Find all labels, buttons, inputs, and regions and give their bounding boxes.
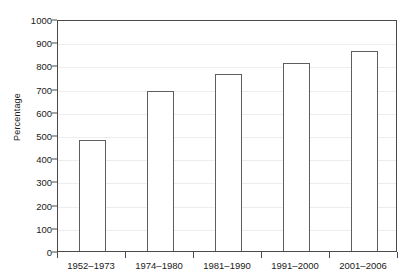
gridline (58, 44, 396, 45)
x-tick-mark (261, 252, 262, 258)
bar (283, 63, 310, 251)
bar (215, 74, 242, 251)
bar (79, 140, 106, 251)
y-tick-label: 1000 (8, 15, 52, 26)
x-tick-mark (329, 252, 330, 258)
x-tick-mark (125, 252, 126, 258)
y-tick-label: 600 (8, 107, 52, 118)
y-tick-label: 300 (8, 177, 52, 188)
y-tick-label: 200 (8, 200, 52, 211)
y-tick-label: 400 (8, 154, 52, 165)
plot-area (57, 20, 397, 252)
bar (147, 91, 174, 251)
x-tick-mark (57, 252, 58, 258)
gridline (58, 67, 396, 68)
bar-chart: Percentage 01002003004005006007008009001… (0, 0, 407, 279)
y-tick-label: 500 (8, 131, 52, 142)
y-tick-label: 900 (8, 38, 52, 49)
x-tick-mark (397, 252, 398, 258)
bar (351, 51, 378, 251)
y-tick-label: 700 (8, 84, 52, 95)
y-tick-label: 100 (8, 223, 52, 234)
y-tick-label: 0 (8, 247, 52, 258)
y-tick-label: 800 (8, 61, 52, 72)
x-tick-label: 2001–2006 (318, 260, 407, 271)
x-tick-mark (193, 252, 194, 258)
